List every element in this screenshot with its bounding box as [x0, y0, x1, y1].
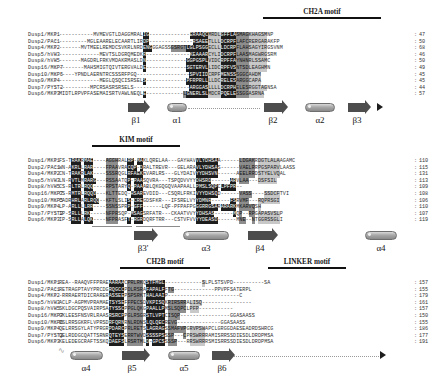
residue-position-number: 186: [419, 326, 435, 333]
strand-b5-label: β5: [118, 363, 146, 373]
residue-position-number: 50: [419, 39, 435, 46]
residue-position-number: 191: [419, 339, 435, 346]
helix-a4-b2-label: α4: [367, 243, 395, 253]
row-separator-end: :: [412, 171, 419, 178]
chain-end-arrow-1: [377, 103, 383, 111]
residue-position-number: 68: [419, 45, 435, 52]
helix-a1-label: α1: [163, 115, 191, 125]
motif-label-kim: KIM motif: [92, 136, 180, 144]
sequence-name: Dusp8/hVH5: [0, 306, 52, 313]
sequence-residues: FS-TRAKRMAE----AGGHRALRP-MAKLQRELAA---GA…: [59, 158, 295, 165]
row-separator: :: [52, 198, 59, 205]
sequence-residues: SKLDGCPQSVAIRPSATYSSCPPGLQKGPAALLPMSLSQP…: [59, 306, 233, 313]
residue-position-number: 157: [419, 280, 435, 287]
alignment-block-2: KIM motif Dusp1/MKP1:FS-TRAKRMAE----AGGH…: [0, 128, 440, 256]
row-separator-end: :: [412, 293, 419, 300]
sequence-residues: QELRRSGYLATYPRGRPDARCPRLRETSLAGRAGSSMAFV…: [59, 326, 273, 333]
strand-b6-label: β6: [208, 363, 236, 373]
sequence-residues: ----------MPCRSASRSRSELS----------------…: [59, 85, 277, 92]
row-separator: :: [52, 287, 59, 294]
row-separator-end: :: [412, 58, 419, 65]
alignment-row: Dusp9/MKP4:QELRRSGYLATYPRGRPDARCPRLRETSL…: [0, 326, 440, 333]
row-separator-end: :: [412, 300, 419, 307]
row-separator: :: [52, 78, 59, 85]
row-separator: :: [52, 191, 59, 198]
helix-a4-b3-label: α4: [72, 363, 100, 373]
row-separator-end: :: [412, 313, 419, 320]
strand-b3prime-label: β3': [128, 243, 158, 253]
strand-b3: [348, 103, 365, 112]
residue-position-number: 113: [419, 178, 435, 185]
row-separator: :: [52, 165, 59, 172]
row-separator-end: :: [412, 178, 419, 185]
row-separator-end: :: [412, 32, 419, 39]
sequence-name: Dusp6/MKP3: [0, 91, 52, 98]
strand-b4-label: β4: [246, 243, 274, 253]
sequence-name: Dusp4/MKP2: [0, 171, 52, 178]
residue-position-number: 155: [419, 287, 435, 294]
row-separator: :: [52, 178, 59, 185]
kim-underline-left: [92, 226, 132, 227]
row-separator: :: [52, 158, 59, 165]
row-separator-end: :: [412, 211, 419, 218]
row-separator-end: :: [412, 287, 419, 294]
helix-a5-label: α5: [170, 363, 198, 373]
alignment-row: Dusp7/PYST2:IP-SRLLLRK-----NFPRSQP-MSAGS…: [0, 211, 440, 218]
sequence-name: Dusp10/MKP5: [0, 198, 52, 205]
sequence-name: Dusp16/MKP7: [0, 65, 52, 72]
residue-position-number: 45: [419, 72, 435, 79]
strand-b1: [128, 103, 144, 112]
sequence-residues: REA--RAAQVFFPRAEAARAACPRLRKQSTFMGL------…: [59, 280, 270, 287]
motif-label-linker: LINKER motif: [268, 258, 346, 266]
helix-a2: [305, 103, 335, 112]
sequence-residues: -------MAGDRLFRKVMDAKRMASLDN------------…: [59, 58, 270, 65]
residue-position-number: 110: [419, 204, 435, 211]
coil-icon: ∿: [58, 346, 65, 355]
alignment-row: Dusp2/PAC1:WN-AKRLLRAR----FPAAVRACQP-DRA…: [0, 165, 440, 172]
alignment-row: Dusp7/PYST2:QELRDDGCQATTSRNRQTEYSERRTWVD…: [0, 333, 440, 340]
sequence-residues: ---------MGLEAARELECAARTLIRDP-----------…: [59, 39, 280, 46]
row-separator: :: [52, 293, 59, 300]
helix-a1: [167, 103, 187, 112]
sequence-residues: MIDTLRPVPFASEMAISRTVAWLNEQLE------------…: [59, 91, 264, 98]
sequence-name: Dusp8/hVH5: [0, 58, 52, 65]
row-separator-end: :: [412, 280, 419, 287]
row-separator: :: [52, 45, 59, 52]
residue-position-number: 150: [419, 313, 435, 320]
alignment-row: Dusp6/MKP3:IP-SRLLALQK----NFPRASFT-RGRDQ…: [0, 217, 440, 224]
motif-bar-linker: [268, 267, 346, 269]
row-separator: :: [52, 52, 59, 59]
alignment-row: Dusp7/PYST2:----------MPCRSASRSRSELS----…: [0, 85, 440, 92]
residue-position-number: 131: [419, 171, 435, 178]
sequence-name: Dusp5/hVH3: [0, 52, 52, 59]
residue-position-number: 46: [419, 52, 435, 59]
sequence-residues: --------MAHSMIGTQIVTERGVALDE------------…: [59, 65, 270, 72]
row-separator: :: [52, 339, 59, 346]
sequence-name: Dusp9/MKP4: [0, 326, 52, 333]
row-separator-end: :: [412, 45, 419, 52]
residue-position-number: 57: [419, 91, 435, 98]
row-separator-end: :: [412, 165, 419, 172]
row-separator: :: [52, 72, 59, 79]
residue-position-number: 50: [419, 58, 435, 65]
row-separator: :: [52, 280, 59, 287]
sequence-residues: -------------MEVTSLDGRQMEDKR------------…: [59, 52, 277, 59]
alignment-rows-1: Dusp1/MKP1:-----------MVMEVGTLDAGGMRALIG…: [0, 32, 440, 98]
residue-position-number: 161: [419, 300, 435, 307]
residue-position-number: 106: [419, 198, 435, 205]
alignment-row: Dusp4/MKP2:-RRRAERTDICRARERASSEEPSPSRKTH…: [0, 293, 440, 300]
residue-position-number: 157: [419, 306, 435, 313]
strand-b1-label: β1: [122, 115, 150, 125]
sequence-residues: CS-RMTRLRQQD---KLTTEDQ-HSAREVDID---CSQRL…: [59, 191, 289, 198]
alignment-row: Dusp5/hVH3:LN-RVTLMRARG---RSSAATQP-PAASQ…: [0, 178, 440, 185]
sequence-residues: -------MVTMEELREMDCSVKRLNRDENGGGAGSSGSRG…: [59, 45, 283, 52]
sequence-name: Dusp1/MKP1: [0, 32, 52, 39]
alignment-row: Dusp6/MKP3:MIDTLRPVPFASEMAISRTVAWLNEQLE-…: [0, 91, 440, 98]
residue-position-number: 107: [419, 211, 435, 218]
residue-position-number: 44: [419, 85, 435, 92]
alignment-block-1: CH2A motif Dusp1/MKP1:-----------MVMEVGT…: [0, 0, 440, 130]
alignment-row: Dusp16/MKP7:GKLEESFNSVRLRAASRSRCPPGLRSGR…: [0, 313, 440, 320]
sequence-name: Dusp2/PAC1: [0, 165, 52, 172]
row-separator-end: :: [412, 72, 419, 79]
sequence-name: Dusp2/PAC1: [0, 39, 52, 46]
